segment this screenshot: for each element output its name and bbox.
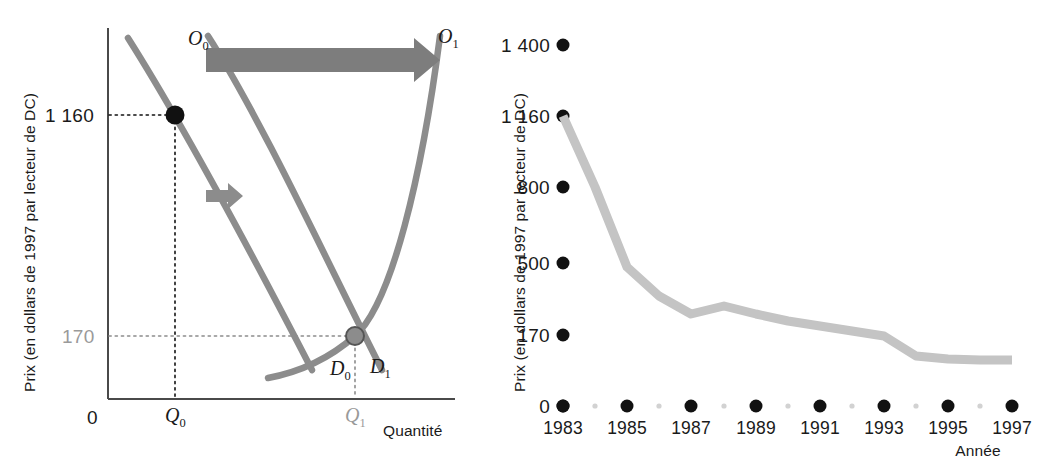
right-y-tick-0: 0 [500, 397, 550, 416]
curve-label-o0-sub: 0 [202, 39, 208, 53]
curve-label-o0: O0 [188, 28, 209, 53]
left-panel-supply-demand: Prix (en dollars de 1997 par lecteur de … [0, 0, 500, 470]
right-y-tick-500: 500 [500, 254, 550, 273]
economics-figure: Prix (en dollars de 1997 par lecteur de … [0, 0, 1052, 470]
right-x-tick-1987: 1987 [671, 420, 711, 438]
y-tick-dot-500 [557, 257, 570, 270]
left-x-tick-q0: Q0 [165, 405, 186, 430]
right-y-tick-800: 800 [500, 178, 550, 197]
left-panel-graphics [0, 0, 500, 470]
right-y-tick-dots [557, 39, 570, 413]
curve-label-d1: D1 [370, 356, 391, 381]
right-x-tick-1991: 1991 [800, 420, 840, 438]
curve-label-o1-letter: O [438, 25, 452, 47]
x-tick-dot-1997 [1006, 400, 1019, 413]
x-tick-dot-1983 [557, 400, 570, 413]
right-panel-graphics [500, 0, 1052, 470]
x-tick-dot-1991 [814, 400, 827, 413]
left-x-axis-title: Quantité [383, 423, 442, 439]
right-x-minor-tick-dots [592, 403, 982, 408]
y-tick-dot-170 [557, 329, 570, 342]
left-x-tick-q0-sub: 0 [179, 416, 185, 430]
right-x-tick-1985: 1985 [607, 420, 647, 438]
left-x-tick-q0-letter: Q [165, 404, 179, 426]
equilibrium-point-0 [166, 106, 185, 125]
x-tick-dot-1995 [942, 400, 955, 413]
demand-curve-d0 [128, 38, 312, 370]
y-tick-dot-1400 [557, 39, 570, 52]
x-tick-dot-1987 [685, 400, 698, 413]
curve-label-d0-sub: 0 [344, 369, 350, 383]
curve-label-d1-sub: 1 [384, 367, 390, 381]
x-minor-dot-1984 [592, 403, 597, 408]
x-tick-dot-1985 [621, 400, 634, 413]
price-series-line [563, 116, 1012, 360]
x-minor-dot-1986 [656, 403, 661, 408]
right-x-tick-1993: 1993 [864, 420, 904, 438]
curve-label-d0-letter: D [330, 357, 344, 379]
left-axes [108, 28, 455, 399]
left-x-tick-q1: Q1 [345, 405, 366, 430]
x-minor-dot-1990 [785, 403, 790, 408]
left-origin-label: 0 [87, 408, 98, 427]
curve-label-d1-letter: D [370, 355, 384, 377]
curve-label-d0: D0 [330, 358, 351, 383]
left-x-tick-q1-letter: Q [345, 404, 359, 426]
y-tick-dot-800 [557, 181, 570, 194]
right-x-tick-1983: 1983 [543, 420, 583, 438]
right-panel-price-history: Prix (en dollars de 1997 par lecteur de … [500, 0, 1052, 470]
x-minor-dot-1996 [977, 403, 982, 408]
x-minor-dot-1988 [721, 403, 726, 408]
x-tick-dot-1989 [750, 400, 763, 413]
right-x-tick-1995: 1995 [928, 420, 968, 438]
left-y-axis-title: Prix (en dollars de 1997 par lecteur de … [22, 93, 38, 392]
left-y-tick-1160: 1 160 [45, 106, 94, 125]
shift-arrow-large [206, 38, 440, 82]
left-x-tick-q1-sub: 1 [359, 416, 365, 430]
x-tick-dot-1993 [878, 400, 891, 413]
right-y-axis-title: Prix (en dollars de 1997 par lecteur de … [512, 93, 528, 392]
curve-label-o1-sub: 1 [452, 37, 458, 51]
left-y-tick-170: 170 [62, 327, 95, 346]
right-x-axis-title: Année [955, 443, 1000, 459]
right-y-tick-1400: 1 400 [500, 36, 550, 55]
right-x-tick-1989: 1989 [736, 420, 776, 438]
right-y-tick-1160: 1 160 [500, 107, 550, 126]
x-minor-dot-1994 [913, 403, 918, 408]
right-y-tick-170: 170 [500, 326, 550, 345]
equilibrium-point-1 [346, 327, 364, 345]
curve-label-o0-letter: O [188, 27, 202, 49]
x-minor-dot-1992 [849, 403, 854, 408]
left-guide-lines [109, 115, 355, 398]
right-x-tick-1997: 1997 [992, 420, 1032, 438]
curve-label-o1: O1 [438, 26, 459, 51]
